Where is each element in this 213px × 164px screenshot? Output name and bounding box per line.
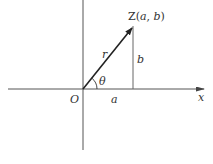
vector-r [83, 28, 132, 89]
horizontal-leg-label-a: a [111, 93, 118, 106]
vertical-leg-label-b: b [137, 53, 144, 66]
angle-label-theta: θ [99, 75, 106, 88]
origin-label-o: O [70, 93, 79, 106]
diagram-canvas: Z(a, b) r b θ O a x [0, 0, 213, 164]
point-label-z: Z(a, b) [128, 10, 165, 23]
modulus-label-r: r [102, 48, 108, 61]
x-axis-label: x [198, 91, 205, 104]
angle-arc-theta [92, 78, 97, 89]
